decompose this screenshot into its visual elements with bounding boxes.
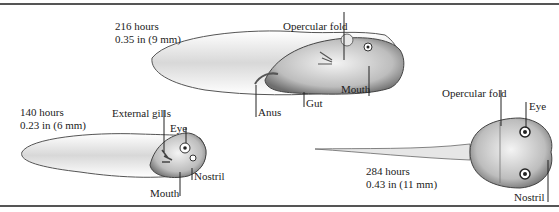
stage-140-size: 0.23 in (6 mm) bbox=[20, 119, 86, 132]
label-140-nostril: Nostril bbox=[194, 170, 225, 182]
label-140-eye: Eye bbox=[170, 122, 187, 134]
stage-216-time: 216 hours bbox=[115, 20, 159, 33]
label-216-anus: Anus bbox=[258, 106, 281, 118]
label-284-nostril: Nostril bbox=[514, 191, 545, 203]
label-140-external-gills: External gills bbox=[112, 107, 171, 119]
stage-284-time: 284 hours bbox=[366, 165, 410, 178]
label-216-opercular-fold: Opercular fold bbox=[283, 20, 347, 32]
stage-284-size: 0.43 in (11 mm) bbox=[366, 178, 437, 191]
label-140-mouth: Mouth bbox=[150, 187, 179, 199]
tadpole-216 bbox=[152, 12, 404, 117]
label-284-eye: Eye bbox=[529, 100, 546, 112]
stage-140-time: 140 hours bbox=[20, 106, 64, 119]
stage-216-size: 0.35 in (9 mm) bbox=[115, 33, 181, 46]
label-284-opercular-fold: Opercular fold bbox=[442, 87, 506, 99]
label-216-mouth: Mouth bbox=[341, 83, 370, 95]
label-216-gut: Gut bbox=[306, 97, 323, 109]
